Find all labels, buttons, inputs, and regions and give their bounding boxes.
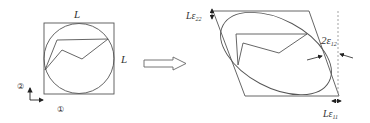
deformed-element <box>207 0 345 112</box>
eps12-arrow-right <box>340 54 353 58</box>
fiber-outer-deformed <box>236 34 307 65</box>
axes: ② ① <box>17 82 64 114</box>
transform-arrow-icon <box>144 57 186 70</box>
undeformed-element: L L <box>44 8 127 94</box>
deformed-ellipse <box>207 0 345 112</box>
parallelogram <box>213 11 339 96</box>
fiber-inner <box>45 39 108 70</box>
fiber-inner-deformed <box>238 34 307 65</box>
label-right-L: L <box>120 53 127 65</box>
eps12-label: 2ε12 <box>321 34 337 47</box>
axis-2-label: ② <box>17 82 24 91</box>
eps11-label: Lε11 <box>322 108 338 120</box>
fiber-outer <box>45 39 108 70</box>
eps22-label: Lε22 <box>185 10 202 22</box>
deformation-diagram: L L ② ① Lε22 2ε12 Lε11 <box>0 0 370 123</box>
eps12-arrow-left <box>307 56 322 60</box>
axis-1-label: ① <box>57 105 64 114</box>
label-top-L: L <box>73 8 80 20</box>
